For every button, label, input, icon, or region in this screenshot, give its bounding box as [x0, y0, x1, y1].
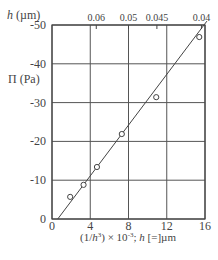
data-point-marker: [81, 182, 86, 187]
top-tick-label: 0.04: [193, 12, 211, 23]
y-axis-label: Π (Pa): [8, 72, 40, 86]
x-axis-label: (1/h3) × 10-3; h [=]µm: [80, 231, 176, 244]
top-tick-label: 0.045: [146, 12, 169, 23]
fit-line: [58, 21, 207, 219]
y-tick-label: 0: [40, 212, 46, 226]
data-point-marker: [154, 95, 159, 100]
data-point-marker: [68, 194, 73, 199]
top-axis-label: h (µm): [7, 8, 40, 22]
top-tick-label: 0.05: [120, 12, 138, 23]
y-tick-label: -30: [30, 96, 46, 110]
y-tick-label: -40: [30, 57, 46, 71]
top-axis-ticks: 0.060.050.0450.04: [88, 12, 211, 29]
x-tick-label: 16: [199, 219, 211, 233]
top-tick-label: 0.06: [88, 12, 106, 23]
x-tick-label: 0: [49, 219, 55, 233]
chart: 0.060.050.0450.04 0481216 0-10-20-30-40-…: [0, 0, 218, 260]
y-tick-label: -10: [30, 173, 46, 187]
y-axis-ticks: 0-10-20-30-40-50: [30, 18, 46, 226]
data-point-marker: [197, 34, 202, 39]
data-point-marker: [119, 131, 124, 136]
data-point-marker: [94, 164, 99, 169]
y-tick-label: -20: [30, 134, 46, 148]
